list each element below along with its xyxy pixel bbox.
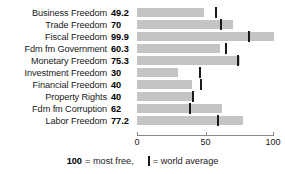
chart-row: Fdm fm Government60.3 <box>0 43 285 55</box>
world-average-marker-icon <box>215 7 217 18</box>
world-average-marker-icon <box>217 115 219 126</box>
row-label: Fdm fm Corruption <box>0 103 107 115</box>
chart-row: Investment Freedom30 <box>0 67 285 79</box>
chart-row: Trade Freedom70 <box>0 19 285 31</box>
value-bar <box>137 56 240 65</box>
value-bar <box>137 44 220 53</box>
chart-row: Financial Freedom40 <box>0 79 285 91</box>
row-plot-area <box>137 19 274 31</box>
row-value: 49.2 <box>111 7 135 19</box>
row-value: 77.2 <box>111 115 135 127</box>
chart-row: Monetary Freedom75.3 <box>0 55 285 67</box>
value-bar <box>137 104 222 113</box>
world-average-marker-icon <box>220 19 222 30</box>
row-plot-area <box>137 31 274 43</box>
value-bar <box>137 32 274 41</box>
world-average-marker-icon <box>189 103 191 114</box>
freedom-index-bar-chart: Business Freedom49.2Trade Freedom70Fisca… <box>0 0 285 174</box>
legend-marker-text: = world average <box>153 156 219 166</box>
row-value: 60.3 <box>111 43 135 55</box>
axis-tick-label: 0 <box>134 137 139 147</box>
row-value: 75.3 <box>111 55 135 67</box>
axis-tick-mark <box>137 132 138 135</box>
row-label: Fiscal Freedom <box>0 31 107 43</box>
chart-rows: Business Freedom49.2Trade Freedom70Fisca… <box>0 7 285 127</box>
row-plot-area <box>137 7 274 19</box>
value-bar <box>137 20 233 29</box>
value-bar <box>137 8 204 17</box>
axis-tick-label: 100 <box>265 137 280 147</box>
value-bar <box>137 116 243 125</box>
row-plot-area <box>137 91 274 103</box>
axis-tick-mark <box>206 132 207 135</box>
chart-legend: 100 = most free, = world average <box>0 153 285 169</box>
world-average-marker-icon <box>199 67 201 78</box>
row-plot-area <box>137 55 274 67</box>
row-plot-area <box>137 115 274 127</box>
row-value: 99.9 <box>111 31 135 43</box>
value-bar <box>137 92 192 101</box>
world-average-marker-icon <box>248 31 250 42</box>
row-value: 40 <box>111 91 135 103</box>
row-plot-area <box>137 79 274 91</box>
world-average-marker-icon <box>148 156 150 166</box>
row-value: 70 <box>111 19 135 31</box>
axis-tick-mark <box>273 132 274 135</box>
legend-max-value: 100 <box>67 156 82 166</box>
chart-row: Property Rights40 <box>0 91 285 103</box>
x-axis <box>137 135 274 136</box>
row-label: Investment Freedom <box>0 67 107 79</box>
row-label: Trade Freedom <box>0 19 107 31</box>
chart-row: Fiscal Freedom99.9 <box>0 31 285 43</box>
legend-max-text: = most free, <box>85 156 134 166</box>
chart-row: Fdm fm Corruption62 <box>0 103 285 115</box>
row-label: Labor Freedom <box>0 115 107 127</box>
world-average-marker-icon <box>192 91 194 102</box>
row-value: 40 <box>111 79 135 91</box>
world-average-marker-icon <box>237 55 239 66</box>
value-bar <box>137 68 178 77</box>
row-value: 30 <box>111 67 135 79</box>
row-label: Monetary Freedom <box>0 55 107 67</box>
row-label: Financial Freedom <box>0 79 107 91</box>
chart-row: Business Freedom49.2 <box>0 7 285 19</box>
row-label: Property Rights <box>0 91 107 103</box>
row-value: 62 <box>111 103 135 115</box>
row-plot-area <box>137 103 274 115</box>
world-average-marker-icon <box>200 79 202 90</box>
axis-tick-label: 50 <box>200 137 210 147</box>
world-average-marker-icon <box>225 43 227 54</box>
row-plot-area <box>137 43 274 55</box>
row-plot-area <box>137 67 274 79</box>
chart-row: Labor Freedom77.2 <box>0 115 285 127</box>
row-label: Fdm fm Government <box>0 43 107 55</box>
value-bar <box>137 80 192 89</box>
row-label: Business Freedom <box>0 7 107 19</box>
